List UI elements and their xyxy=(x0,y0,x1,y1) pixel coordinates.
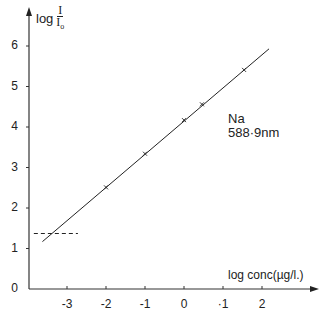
y-label-denominator: Io xyxy=(56,17,64,32)
y-tick-label: 4 xyxy=(4,119,18,133)
calibration-line xyxy=(42,49,269,242)
y-axis-label: log I Io xyxy=(36,5,64,32)
y-tick-label: 2 xyxy=(4,200,18,214)
y-label-fraction: I Io xyxy=(56,5,64,32)
x-tick-label: 0 xyxy=(172,297,196,311)
y-axis-arrow-icon xyxy=(26,7,32,16)
y-tick-label: 5 xyxy=(4,79,18,93)
x-axis-label: log conc(µg/l.) xyxy=(228,268,304,282)
x-tick-label: 2 xyxy=(250,297,274,311)
x-axis-arrow-icon xyxy=(310,286,319,292)
x-tick-label: -1 xyxy=(133,297,157,311)
y-tick-label: 1 xyxy=(4,241,18,255)
y-tick-label: 0 xyxy=(4,281,18,295)
x-tick-label: -2 xyxy=(94,297,118,311)
y-tick-label: 3 xyxy=(4,160,18,174)
annotation-element: Na xyxy=(228,112,279,126)
x-tick-label: -3 xyxy=(55,297,79,311)
data-point-marker xyxy=(242,68,246,72)
series-annotation: Na 588·9nm xyxy=(228,112,279,140)
y-label-prefix: log xyxy=(36,11,53,26)
data-point-marker xyxy=(104,185,108,189)
data-series xyxy=(34,49,269,242)
y-tick-label: 6 xyxy=(4,38,18,52)
annotation-wavelength: 588·9nm xyxy=(228,126,279,140)
x-tick-label: ·1 xyxy=(211,297,235,311)
